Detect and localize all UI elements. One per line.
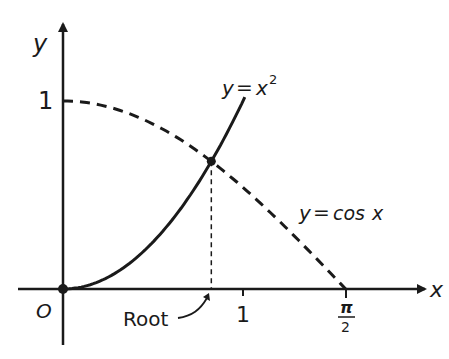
origin-label: O — [36, 299, 52, 323]
svg-text:x: x — [255, 76, 268, 100]
origin-point — [58, 284, 68, 294]
root-arrow — [178, 298, 207, 318]
x-tick-label-1: 1 — [236, 302, 250, 327]
cosine-label: y = cos x — [298, 200, 384, 225]
svg-text:cos: cos — [333, 202, 365, 224]
cosine-curve — [63, 101, 346, 289]
svg-text:2: 2 — [269, 72, 277, 87]
y-axis-label: y — [32, 30, 48, 58]
x-tick-label-pi: π — [340, 298, 353, 317]
svg-text:x: x — [371, 202, 384, 224]
root-label: Root — [123, 307, 168, 331]
x-tick-label-2: 2 — [341, 319, 350, 335]
root-diagram: y x O 1 1 π 2 Root y = x 2 y = cos x — [0, 0, 449, 359]
svg-text:=: = — [236, 75, 253, 99]
svg-text:=: = — [313, 200, 330, 224]
x-axis-label: x — [429, 277, 444, 302]
svg-text:y: y — [221, 76, 235, 100]
parabola-label: y = x 2 — [221, 72, 277, 100]
svg-text:y: y — [298, 201, 312, 225]
y-tick-label-1: 1 — [38, 87, 53, 115]
intersection-point — [207, 157, 216, 166]
parabola-curve — [63, 97, 245, 289]
